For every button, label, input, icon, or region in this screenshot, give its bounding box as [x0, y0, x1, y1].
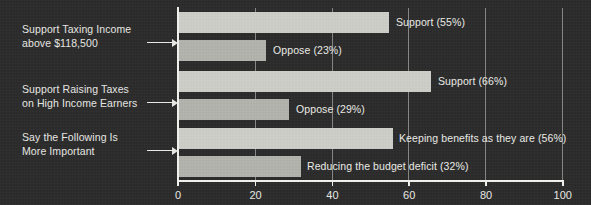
- tickmark-100: [562, 180, 564, 186]
- ticklabel-60: 60: [403, 189, 415, 201]
- tickmark-0: [177, 180, 179, 186]
- category-label-1: Support Raising Taxes on High Income Ear…: [22, 82, 137, 110]
- bar-group0-oppose: [178, 40, 266, 61]
- bar-group1-oppose: [178, 99, 289, 120]
- gridline-80: [485, 8, 486, 181]
- ticklabel-100: 100: [554, 189, 572, 201]
- tickmark-20: [255, 180, 257, 186]
- tickmark-60: [408, 180, 410, 186]
- bar-annotation-group1-support: Support (66%): [438, 75, 507, 87]
- category-label-2-line2: More Important: [22, 144, 118, 158]
- category-label-0-line1: Support Taxing Income: [22, 22, 131, 36]
- plot-area: 0 20 40 60 80 100 Support (55%) Oppose (…: [178, 8, 562, 181]
- x-axis-line: [177, 180, 563, 182]
- bar-group1-support: [178, 71, 431, 92]
- bar-group0-support: [178, 12, 389, 33]
- category-label-1-line1: Support Raising Taxes: [22, 82, 137, 96]
- horizontal-bar-chart: Support Taxing Income above $118,500 Sup…: [0, 0, 591, 205]
- bar-annotation-group2-reducing-deficit: Reducing the budget deficit (32%): [307, 160, 468, 172]
- bar-annotation-group2-keeping-benefits: Keeping benefits as they are (56%): [399, 132, 566, 144]
- ticklabel-80: 80: [480, 189, 492, 201]
- category-arrow-0-icon: [147, 38, 178, 47]
- category-label-1-line2: on High Income Earners: [22, 96, 137, 110]
- gridline-40: [332, 8, 333, 181]
- bar-annotation-group1-oppose: Oppose (29%): [296, 103, 365, 115]
- gridline-100: [562, 8, 563, 181]
- ticklabel-0: 0: [175, 189, 181, 201]
- ticklabel-20: 20: [249, 189, 261, 201]
- category-arrow-1-icon: [147, 98, 178, 107]
- bar-group2-reducing-deficit: [178, 156, 301, 177]
- bar-group2-keeping-benefits: [178, 128, 393, 149]
- bar-annotation-group0-oppose: Oppose (23%): [273, 44, 342, 56]
- category-label-0: Support Taxing Income above $118,500: [22, 22, 131, 50]
- tickmark-80: [485, 180, 487, 186]
- bar-annotation-group0-support: Support (55%): [396, 16, 465, 28]
- tickmark-40: [332, 180, 334, 186]
- ticklabel-40: 40: [326, 189, 338, 201]
- category-label-2: Say the Following Is More Important: [22, 130, 118, 158]
- category-label-0-line2: above $118,500: [22, 36, 131, 50]
- gridline-60: [408, 8, 409, 181]
- category-label-2-line1: Say the Following Is: [22, 130, 118, 144]
- category-arrow-2-icon: [147, 146, 178, 155]
